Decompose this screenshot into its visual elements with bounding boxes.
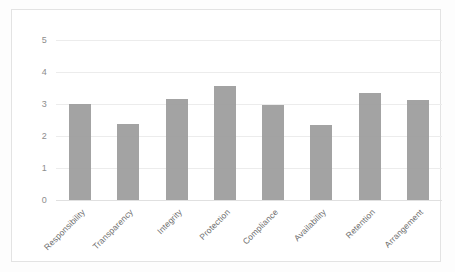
chart-screenshot: 012345 ResponsibilityTransparencyIntegri… [0, 0, 455, 272]
y-tick-label-1: 1 [42, 163, 47, 173]
bar-transparency [117, 124, 139, 200]
gridline-0 [56, 200, 442, 201]
bar-group: Integrity [153, 40, 201, 200]
bar-group: Arrangement [394, 40, 442, 200]
plot-area: 012345 ResponsibilityTransparencyIntegri… [56, 40, 442, 200]
y-tick-label-0: 0 [42, 195, 47, 205]
x-tick-label-availability: Availability [292, 207, 328, 243]
x-tick-label-integrity: Integrity [155, 207, 184, 236]
bar-group: Responsibility [56, 40, 104, 200]
y-tick-label-5: 5 [42, 35, 47, 45]
bar-group: Compliance [249, 40, 297, 200]
bar-responsibility [69, 104, 91, 200]
x-tick-label-transparency: Transparency [91, 207, 135, 251]
x-tick-label-compliance: Compliance [241, 207, 281, 247]
x-tick-label-retention: Retention [343, 207, 376, 240]
bar-availability [310, 125, 332, 200]
bar-integrity [166, 99, 188, 200]
y-tick-label-4: 4 [42, 67, 47, 77]
bar-retention [359, 93, 381, 200]
bar-group: Protection [201, 40, 249, 200]
bar-protection [214, 86, 236, 200]
x-tick-label-arrangement: Arrangement [382, 207, 425, 250]
y-tick-label-2: 2 [42, 131, 47, 141]
chart-frame: 012345 ResponsibilityTransparencyIntegri… [11, 9, 441, 262]
bar-series: ResponsibilityTransparencyIntegrityProte… [56, 40, 442, 200]
y-tick-label-3: 3 [42, 99, 47, 109]
bar-compliance [262, 105, 284, 200]
bar-group: Availability [297, 40, 345, 200]
bar-group: Retention [346, 40, 394, 200]
x-tick-label-protection: Protection [197, 207, 232, 242]
bar-arrangement [407, 100, 429, 200]
bar-group: Transparency [104, 40, 152, 200]
x-tick-label-responsibility: Responsibility [42, 207, 87, 252]
